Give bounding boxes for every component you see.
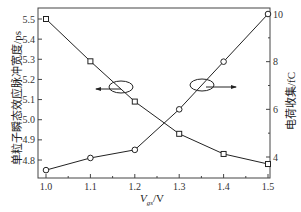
x-tick-label: 1.4 bbox=[217, 181, 230, 192]
y-right-tick-label: 8 bbox=[273, 56, 278, 67]
circle-marker bbox=[265, 11, 271, 17]
x-label-main: V bbox=[140, 192, 147, 204]
y-right-label: 电荷收集/fC bbox=[282, 51, 298, 151]
square-marker bbox=[88, 59, 93, 64]
y-left-tick-label: 5.5 bbox=[23, 14, 36, 25]
circle-marker bbox=[221, 59, 227, 65]
y-right-tick-label: 4 bbox=[273, 152, 278, 163]
square-marker bbox=[221, 151, 226, 156]
plot-frame bbox=[38, 8, 270, 178]
circle-marker bbox=[176, 107, 182, 113]
x-tick-label: 1.2 bbox=[129, 181, 142, 192]
y-right-tick-label: 10 bbox=[273, 9, 283, 20]
left-arrow-icon bbox=[95, 87, 101, 91]
y-left-tick-label: 5.3 bbox=[23, 54, 36, 65]
circle-marker bbox=[43, 167, 49, 173]
series-line-circle bbox=[46, 14, 268, 170]
dual-axis-line-chart: 1.01.11.21.31.41.54.84.95.05.15.25.35.45… bbox=[0, 0, 301, 212]
square-marker bbox=[177, 131, 182, 136]
circle-marker bbox=[132, 147, 138, 153]
y-left-tick-label: 4.8 bbox=[23, 155, 36, 166]
x-axis-label: Vgs/V bbox=[140, 192, 164, 207]
x-label-unit: /V bbox=[153, 192, 164, 204]
square-marker bbox=[266, 162, 271, 167]
y-left-label: 单粒子瞬态效应脉冲宽度/ps bbox=[8, 18, 24, 178]
square-marker bbox=[132, 99, 137, 104]
x-tick-label: 1.1 bbox=[84, 181, 97, 192]
x-tick-label: 1.5 bbox=[262, 181, 275, 192]
right-arrow-icon bbox=[231, 85, 237, 89]
square-marker bbox=[44, 17, 49, 22]
y-left-tick-label: 5.2 bbox=[23, 74, 36, 85]
y-left-tick-label: 5.0 bbox=[23, 114, 36, 125]
y-left-tick-label: 5.4 bbox=[23, 34, 36, 45]
y-left-tick-label: 5.1 bbox=[23, 94, 36, 105]
circle-marker bbox=[88, 155, 94, 161]
series-line-square bbox=[46, 19, 268, 164]
x-tick-label: 1.0 bbox=[40, 181, 53, 192]
y-right-tick-label: 6 bbox=[273, 104, 278, 115]
x-tick-label: 1.3 bbox=[173, 181, 186, 192]
left-series-ellipse bbox=[109, 81, 133, 93]
y-left-tick-label: 4.9 bbox=[23, 134, 36, 145]
